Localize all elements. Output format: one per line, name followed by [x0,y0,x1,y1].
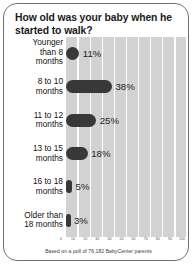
bar-value-label: 11% [83,47,102,60]
bar-chart: Youngerthan 8months11%8 to 10months38%11… [9,37,187,237]
category-label: 16 to 18months [9,170,63,196]
chart-row: 11 to 12months25% [9,104,187,137]
category-label-line: 18 months [9,220,63,230]
bar [66,147,88,160]
x-tick-label: 70 [144,237,148,241]
chart-footnote: Based on a poll of 76,182 BabyCenter par… [4,248,193,254]
category-label-line: months [9,187,63,197]
x-tick-label: 50 [120,237,124,241]
chart-card: How old was your baby when he started to… [3,3,189,261]
x-tick-label: 20 [83,237,87,241]
page-title: How old was your baby when he started to… [15,12,181,37]
x-tick-label: 60 [132,237,136,241]
category-label: Youngerthan 8months [9,37,63,67]
bar [66,214,71,227]
chart-row: Youngerthan 8months11% [9,37,187,70]
x-tick-label: 30 [95,237,99,241]
x-axis: 0102030405060708090100 [61,237,182,245]
chart-row: 8 to 10months38% [9,70,187,103]
category-label: 8 to 10months [9,70,63,96]
x-tick-label: 10 [71,237,75,241]
bar [66,47,79,60]
x-tick-label: 0 [60,237,62,241]
chart-row: Older than18 months3% [9,204,187,237]
chart-row: 13 to 15months18% [9,137,187,170]
bar [66,80,112,93]
category-label: Older than18 months [9,204,63,230]
bar-value-label: 5% [76,180,90,193]
bar [66,180,72,193]
bar-value-label: 3% [74,214,88,227]
category-label: 13 to 15months [9,137,63,163]
chart-row: 16 to 18months5% [9,170,187,203]
x-tick-label: 40 [107,237,111,241]
bar-value-label: 18% [91,147,110,160]
category-label-line: months [9,120,63,130]
category-label-line: months [9,87,63,97]
x-tick-label: 100 [179,237,185,241]
bar [66,114,96,127]
bar-value-label: 25% [100,114,119,127]
category-label: 11 to 12months [9,104,63,130]
x-tick-label: 80 [156,237,160,241]
category-label-line: months [9,57,63,67]
bar-value-label: 38% [115,80,134,93]
x-tick-label: 90 [168,237,172,241]
category-label-line: months [9,154,63,164]
